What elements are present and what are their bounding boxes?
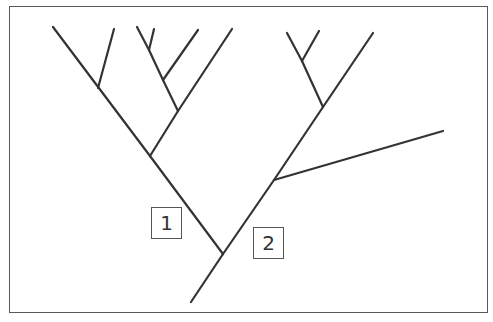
branch-leaf-3 xyxy=(137,27,149,50)
branch-right-inner xyxy=(302,61,323,107)
branch-leaf-8 xyxy=(163,30,198,80)
branch-inner-2 xyxy=(163,80,178,111)
node-label-1: 1 xyxy=(151,207,182,239)
node-label-2: 2 xyxy=(253,227,284,259)
cladogram xyxy=(0,0,493,322)
branch-leaf-4 xyxy=(149,29,154,50)
branch-inner-clade xyxy=(150,111,178,156)
node-label-1-text: 1 xyxy=(160,211,173,235)
node-label-2-text: 2 xyxy=(262,231,275,255)
branch-right-leaf-2 xyxy=(302,31,319,61)
branch-1 xyxy=(150,156,223,254)
branch-leaf-9 xyxy=(178,29,232,111)
branch-right-leaf-1 xyxy=(287,33,302,61)
branch-right-leaf-3 xyxy=(323,33,373,107)
branch-leaf-2 xyxy=(98,29,114,88)
branch-left-outer xyxy=(53,27,150,156)
branch-inner-3 xyxy=(149,50,163,80)
branch-long-leaf xyxy=(274,131,443,180)
root-trunk xyxy=(191,254,223,302)
